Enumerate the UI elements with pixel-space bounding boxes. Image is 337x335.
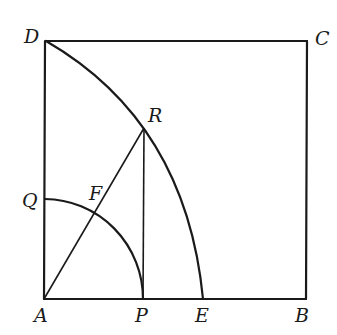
label-r: R [147,104,162,126]
label-f: F [88,182,103,204]
segment-da [44,41,45,299]
segment-rp [143,128,144,299]
label-q: Q [22,189,38,211]
label-p: P [134,304,149,326]
geometry-diagram: D C R Q F A P E B [0,0,337,335]
label-a: A [32,304,48,326]
arc-dre [46,41,203,299]
label-b: B [294,304,309,326]
label-c: C [315,27,330,49]
label-d: D [23,25,39,47]
segment-cb [306,41,307,299]
segment-ar [44,128,144,299]
label-e: E [194,304,209,326]
